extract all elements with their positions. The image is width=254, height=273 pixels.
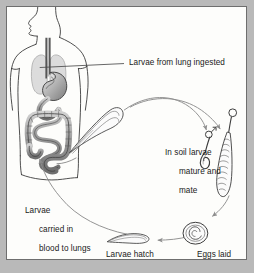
larva (107, 234, 149, 244)
label-larvae-hatch-and-enter-skin: Larvae hatch and enter skin (106, 250, 172, 260)
life-cycle-figure: Larvae from lung ingested In soil larvae… (0, 0, 254, 273)
diagram-panel: Larvae from lung ingested In soil larvae… (6, 6, 247, 260)
label-larvae-from-lung-ingested: Larvae from lung ingested (129, 58, 225, 68)
label-soil-line-2: mature and (179, 167, 221, 176)
label-blood-line-2: carried in (39, 225, 73, 234)
label-eggs-laid: Eggs laid (197, 250, 231, 260)
label-hatch-line-1: Larvae hatch (106, 250, 154, 259)
label-blood-line-3: blood to lungs (39, 244, 91, 253)
label-soil-line-1: In soil larvae (165, 148, 212, 157)
label-larvae-carried-in-blood-to-lungs: Larvae carried in blood to lungs (25, 206, 91, 254)
label-blood-line-1: Larvae (25, 206, 50, 215)
adult-worm (69, 108, 123, 154)
label-soil-line-3: mate (179, 186, 197, 195)
trachea-esophagus (46, 38, 50, 79)
egg-with-coiled-larva (183, 222, 208, 244)
label-in-soil-larvae-mature-and-mate: In soil larvae mature and mate (165, 148, 221, 196)
male-symbol-icon (205, 127, 216, 138)
